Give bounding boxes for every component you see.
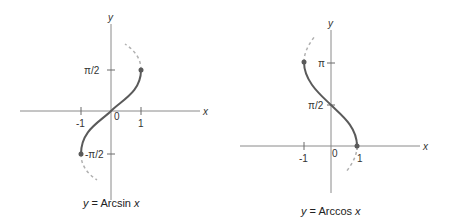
y-axis-label: y xyxy=(107,12,114,23)
y-axis-label: y xyxy=(327,18,334,29)
arccos-dashed-lower xyxy=(346,146,357,172)
x-axis-label: x xyxy=(422,141,429,152)
arccos-dashed-upper xyxy=(304,36,315,62)
x-tick-label-0: 0 xyxy=(332,148,338,159)
y-tick-label-pi-half: π/2 xyxy=(308,100,324,111)
y-tick-label-pi-half: π/2 xyxy=(84,65,100,76)
x-tick-label-1: 1 xyxy=(138,118,144,129)
arccos-endpoint-upper xyxy=(302,60,307,65)
x-tick-label-minus-1: -1 xyxy=(299,153,308,164)
x-tick-label-minus-1: -1 xyxy=(76,118,85,129)
arcsin-endpoint-upper xyxy=(139,68,144,73)
inverse-trig-figure: y x -1 0 1 π/2 -π/2 y = Arcsin x y x -1 … xyxy=(0,0,449,220)
arccos-chart: y x -1 0 1 π π/2 y = Arccos x xyxy=(240,18,429,217)
arcsin-chart: y x -1 0 1 π/2 -π/2 y = Arcsin x xyxy=(20,12,209,209)
y-tick-label-minus-pi-half: -π/2 xyxy=(85,149,104,160)
arccos-caption: y = Arccos x xyxy=(300,205,361,217)
y-tick-label-pi: π xyxy=(318,58,325,69)
arccos-endpoint-lower xyxy=(355,144,360,149)
x-axis-label: x xyxy=(202,106,209,117)
arcsin-endpoint-lower xyxy=(79,152,84,157)
arcsin-dashed-upper xyxy=(125,44,141,70)
arcsin-caption: y = Arcsin x xyxy=(82,197,140,209)
x-tick-label-0: 0 xyxy=(114,111,120,122)
x-tick-label-1: 1 xyxy=(357,153,363,164)
